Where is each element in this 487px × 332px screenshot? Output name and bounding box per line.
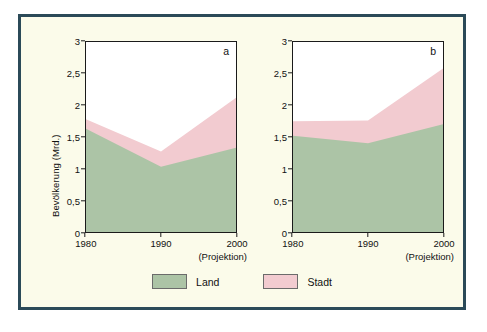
y-tick-mark-b-2 [288,104,292,105]
y-axis-title: Bevölkerung (Mrd.) [37,69,53,219]
x-tick-mark-2000 [236,233,237,237]
figure-frame: Bevölkerung (Mrd.) a [18,14,466,310]
y-tick-label-2: 2 [75,99,80,110]
y-tick-label-b-2-5: 2,5 [274,68,287,79]
projection-note-a: (Projektion) [198,251,247,262]
x-tick-mark-b-2000 [443,233,444,237]
x-tick-label-1990: 1990 [150,238,171,249]
y-tick-label-b-1-5: 1,5 [274,132,287,143]
y-tick-label-2-5: 2,5 [67,68,80,79]
legend-item-stadt: Stadt [263,274,332,289]
y-tick-mark-2 [81,104,85,105]
y-tick-label-b-1: 1 [282,164,287,175]
legend-swatch-land [152,274,187,289]
area-chart-b-svg [293,42,443,232]
x-tick-mark-1980 [84,233,85,237]
y-tick-label-b-3: 3 [282,36,287,47]
figure-root: Bevölkerung (Mrd.) a [0,0,487,332]
chart-panel-a: Bevölkerung (Mrd.) a [39,29,254,254]
y-tick-mark-2-5 [81,72,85,73]
y-tick-mark-b-1 [288,168,292,169]
y-tick-mark-1-5 [81,136,85,137]
y-tick-label-3: 3 [75,36,80,47]
y-tick-label-1-5: 1,5 [67,132,80,143]
y-axis-title-text: Bevölkerung (Mrd.) [50,134,61,217]
y-tick-label-1: 1 [75,164,80,175]
panel-letter-a: a [223,45,229,57]
x-tick-label-b-1990: 1990 [357,238,378,249]
plot-area-b: b 0 0,5 1 1,5 2 2,5 3 [292,41,444,233]
y-tick-mark-0-5 [81,200,85,201]
y-tick-label-0-5: 0,5 [67,195,80,206]
x-tick-label-b-1980: 1980 [282,238,303,249]
panel-container: Bevölkerung (Mrd.) a [21,17,463,307]
x-tick-label-1980: 1980 [75,238,96,249]
plot-frame-a [85,41,237,233]
y-tick-label-b-2: 2 [282,99,287,110]
legend-swatch-stadt [263,274,298,289]
y-tick-label-b-0: 0 [282,228,287,239]
y-tick-mark-b-1-5 [288,136,292,137]
y-tick-mark-b-2-5 [288,72,292,73]
projection-note-b: (Projektion) [405,251,454,262]
plot-area-a: a 0 0,5 1 1,5 2 2,5 3 [85,41,237,233]
chart-legend: Land Stadt [21,274,463,289]
x-tick-label-b-2000: 2000 [433,238,454,249]
y-tick-mark-1 [81,168,85,169]
x-tick-mark-b-1980 [291,233,292,237]
y-tick-mark-3 [81,40,85,41]
legend-item-land: Land [152,274,219,289]
x-tick-mark-1990 [160,233,161,237]
y-tick-label-b-0-5: 0,5 [274,195,287,206]
legend-label-land: Land [196,276,219,288]
y-tick-mark-b-0-5 [288,200,292,201]
x-tick-label-2000: 2000 [226,238,247,249]
legend-label-stadt: Stadt [307,276,332,288]
area-chart-a-svg [86,42,236,232]
chart-panel-b: b 0 0,5 1 1,5 2 2,5 3 [252,29,464,254]
plot-frame-b [292,41,444,233]
y-tick-label-0: 0 [75,228,80,239]
panel-letter-b: b [430,45,436,57]
y-tick-mark-b-3 [288,40,292,41]
x-tick-mark-b-1990 [367,233,368,237]
